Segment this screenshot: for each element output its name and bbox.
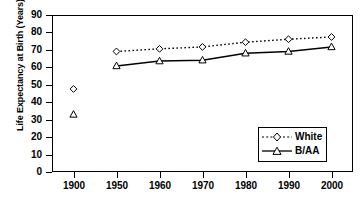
legend-label-white: White xyxy=(292,132,322,142)
y-axis-tick xyxy=(46,67,52,68)
y-axis-tick-label: 30 xyxy=(0,115,42,125)
x-axis-tick xyxy=(74,172,75,178)
x-axis-tick xyxy=(246,172,247,178)
legend-item-white: White xyxy=(262,130,322,144)
x-axis-tick xyxy=(289,172,290,178)
y-axis-tick xyxy=(46,32,52,33)
y-axis-tick-label: 50 xyxy=(0,80,42,90)
y-axis-tick xyxy=(46,102,52,103)
x-axis-tick xyxy=(160,172,161,178)
y-axis-tick xyxy=(46,120,52,121)
y-axis-tick-label: 90 xyxy=(0,10,42,20)
y-axis-tick-label: 20 xyxy=(0,132,42,142)
life-expectancy-chart: Life Expectancy at Birth (Years) 0102030… xyxy=(0,0,363,221)
y-axis-tick-label: 0 xyxy=(0,167,42,177)
x-axis-tick xyxy=(203,172,204,178)
legend-item-baa: B/AA xyxy=(262,144,322,158)
y-axis-tick-label: 70 xyxy=(0,45,42,55)
y-axis-tick xyxy=(46,50,52,51)
y-axis-tick-label: 10 xyxy=(0,150,42,160)
x-axis-tick xyxy=(332,172,333,178)
chart-legend: White B/AA xyxy=(258,127,327,162)
y-axis-tick-label: 80 xyxy=(0,27,42,37)
y-axis-tick xyxy=(46,15,52,16)
y-axis-tick xyxy=(46,137,52,138)
y-axis-tick xyxy=(46,172,52,173)
y-axis-tick xyxy=(46,155,52,156)
legend-symbol-baa xyxy=(262,145,292,157)
legend-label-baa: B/AA xyxy=(292,146,319,156)
y-axis-tick-label: 40 xyxy=(0,97,42,107)
y-axis-tick-label: 60 xyxy=(0,62,42,72)
legend-symbol-white xyxy=(262,131,292,143)
y-axis-tick xyxy=(46,85,52,86)
x-axis-tick-label: 2000 xyxy=(307,181,357,191)
x-axis-tick xyxy=(117,172,118,178)
